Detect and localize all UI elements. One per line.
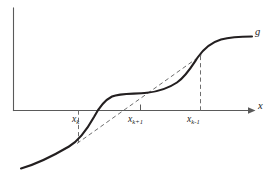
curve-label-g: g bbox=[255, 27, 260, 38]
tick-label-x-k-plus-1: xk+1 bbox=[128, 114, 143, 124]
function-curve-g bbox=[21, 37, 252, 169]
tick-label-x-k-minus-1-subscript: k-1 bbox=[191, 118, 200, 125]
x-axis-label: x bbox=[258, 101, 263, 112]
tick-label-x-k-plus-1-subscript: k+1 bbox=[132, 118, 143, 125]
x-axis-arrowhead bbox=[248, 107, 256, 114]
secant-method-figure: x g xk xk+1 xk-1 bbox=[0, 0, 276, 177]
tick-label-x-k: xk bbox=[72, 114, 79, 124]
tick-label-x-k-subscript: k bbox=[76, 118, 79, 125]
tick-label-x-k-minus-1: xk-1 bbox=[187, 114, 200, 124]
dashed-secant-line bbox=[77, 55, 202, 144]
figure-canvas bbox=[0, 0, 276, 177]
